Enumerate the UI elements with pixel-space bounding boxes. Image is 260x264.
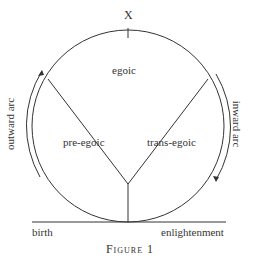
birth-label: birth xyxy=(32,226,53,238)
figure: X egoic pre-egoic trans-egoic outward ar… xyxy=(0,0,260,264)
right-divider xyxy=(128,79,208,184)
outward-arc-label: outward arc xyxy=(4,98,16,150)
inward-arc-label: inward arc xyxy=(231,101,243,148)
inward-arc xyxy=(216,74,231,180)
inward-arrowhead xyxy=(213,176,219,182)
outward-arc xyxy=(26,71,42,177)
left-divider xyxy=(48,79,128,184)
top-mark-label: X xyxy=(124,8,133,23)
enlightenment-label: enlightenment xyxy=(161,226,224,238)
figure-caption: Figure 1 xyxy=(0,242,260,257)
segment-pre-egoic: pre-egoic xyxy=(63,136,105,148)
diagram-graphic xyxy=(0,0,260,264)
outward-arrowhead xyxy=(38,70,44,76)
segment-trans-egoic: trans-egoic xyxy=(147,136,196,148)
segment-egoic: egoic xyxy=(112,64,136,76)
